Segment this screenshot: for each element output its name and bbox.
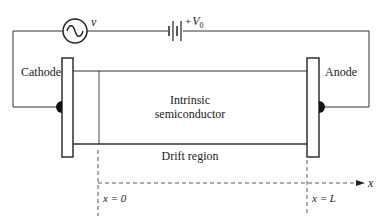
semiconductor-label-line2: semiconductor bbox=[155, 107, 226, 121]
source-label: v bbox=[91, 15, 97, 29]
cathode-contact bbox=[56, 101, 62, 113]
semiconductor-label-line1: Intrinsic bbox=[170, 93, 210, 107]
battery-icon bbox=[169, 21, 181, 41]
circuit-diagram: v +V0 Cathode Anode Intrinsic semiconduc… bbox=[0, 0, 385, 218]
axis-guides bbox=[98, 150, 358, 216]
x-axis-arrow-icon bbox=[356, 180, 365, 186]
x-axis-label: x bbox=[367, 176, 374, 190]
x-L-label: x = L bbox=[311, 192, 336, 204]
x-zero-label: x = 0 bbox=[102, 192, 127, 204]
ac-source-icon bbox=[63, 19, 87, 43]
anode-plate bbox=[307, 58, 319, 157]
anode-label: Anode bbox=[325, 65, 357, 79]
drift-region-label: Drift region bbox=[162, 149, 219, 163]
cathode-plate bbox=[62, 58, 73, 157]
cathode-label: Cathode bbox=[21, 65, 61, 79]
anode-contact bbox=[319, 101, 325, 113]
battery-label: +V0 bbox=[185, 14, 204, 30]
diagram-canvas: v +V0 Cathode Anode Intrinsic semiconduc… bbox=[0, 0, 385, 218]
